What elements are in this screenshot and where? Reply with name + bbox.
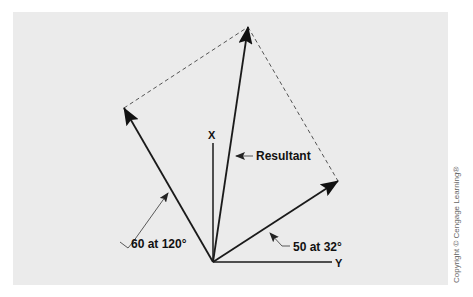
resultant-arrow xyxy=(213,27,248,262)
vector-60-label: 60 at 120° xyxy=(131,237,187,251)
dashed-line-left xyxy=(124,27,248,108)
leader-50 xyxy=(270,233,290,246)
vector-diagram: X Y Resultant 60 at 120° 50 at 32° xyxy=(0,0,473,297)
x-axis-label: X xyxy=(208,129,216,141)
resultant-label: Resultant xyxy=(256,149,311,163)
copyright-notice: Copyright © Cengage Learning® xyxy=(452,167,461,283)
y-axis-label: Y xyxy=(335,257,343,269)
vector-50-label: 50 at 32° xyxy=(293,240,342,254)
